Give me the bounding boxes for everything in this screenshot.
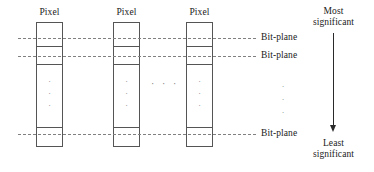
pixel-cell-divider — [187, 127, 212, 128]
least-significant-label-line2: significant — [298, 149, 369, 161]
bit-plane-line-2 — [18, 56, 256, 57]
bit-plane-label-3: Bit-plane — [261, 128, 297, 139]
pixel-cell-divider — [114, 64, 139, 65]
pixel-cell-divider — [187, 46, 212, 47]
pixel-cell-divider — [187, 64, 212, 65]
significance-arrow-head — [330, 125, 336, 132]
most-significant-label-line2: significant — [298, 17, 369, 29]
pixel-column-ellipsis-2: · · · — [122, 76, 131, 112]
pixel-column-label-2: Pixel — [104, 7, 149, 18]
pixel-column-ellipsis-1: · · · — [45, 76, 54, 112]
bit-plane-label-ellipsis: · · · — [278, 80, 288, 119]
bit-plane-label-2: Bit-plane — [261, 50, 297, 61]
most-significant-label-line1: Most — [298, 6, 369, 18]
significance-arrow-shaft — [333, 33, 334, 126]
between-columns-ellipsis: · · · — [151, 79, 179, 89]
bit-plane-line-3 — [18, 134, 256, 135]
least-significant-label-line1: Least — [298, 138, 369, 150]
bit-plane-diagram: Pixel · · · Pixel · · · · · · Pixel · · … — [0, 0, 374, 172]
pixel-column-ellipsis-3: · · · — [195, 76, 204, 112]
pixel-column-label-3: Pixel — [177, 7, 222, 18]
pixel-cell-divider — [114, 46, 139, 47]
pixel-column-label-1: Pixel — [27, 7, 72, 18]
pixel-cell-divider — [37, 64, 62, 65]
bit-plane-line-1 — [18, 38, 256, 39]
pixel-cell-divider — [37, 127, 62, 128]
bit-plane-label-1: Bit-plane — [261, 32, 297, 43]
pixel-cell-divider — [37, 46, 62, 47]
pixel-cell-divider — [114, 127, 139, 128]
